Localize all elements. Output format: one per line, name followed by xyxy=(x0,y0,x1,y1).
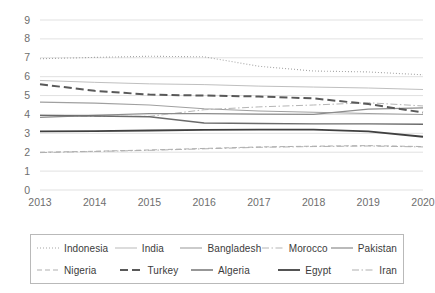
legend-row: Nigeria Turkey Algeria Egypt Iran xyxy=(37,259,397,281)
x-axis-tick-label: 2018 xyxy=(302,196,326,208)
legend-swatch-algeria xyxy=(191,265,213,275)
legend-label-pakistan: Pakistan xyxy=(358,243,397,254)
y-axis-tick-label: 7 xyxy=(24,51,30,63)
x-axis-tick-label: 2017 xyxy=(247,196,271,208)
y-axis-tick-label: 1 xyxy=(24,165,30,177)
legend-label-turkey: Turkey xyxy=(147,265,178,276)
legend-row: Indonesia India Bangladesh Morocco Pakis… xyxy=(37,237,397,259)
series-line-india xyxy=(40,80,423,89)
legend-label-bangladesh: Bangladesh xyxy=(207,243,261,254)
legend-swatch-morocco xyxy=(262,243,284,253)
legend-swatch-egypt xyxy=(278,265,300,275)
chart-legend: Indonesia India Bangladesh Morocco Pakis… xyxy=(30,234,404,284)
y-axis-tick-label: 8 xyxy=(24,32,30,44)
series-line-indonesia xyxy=(40,56,423,75)
x-axis-tick-label: 2019 xyxy=(357,196,381,208)
legend-item-turkey: Turkey xyxy=(120,265,190,276)
y-axis-tick-label: 9 xyxy=(24,14,30,26)
x-axis-tick-label: 2013 xyxy=(28,196,52,208)
legend-swatch-iran xyxy=(352,265,374,275)
x-axis-tick-label: 2015 xyxy=(138,196,162,208)
legend-item-bangladesh: Bangladesh xyxy=(180,243,261,254)
legend-item-pakistan: Pakistan xyxy=(331,243,397,254)
legend-item-indonesia: Indonesia xyxy=(37,243,115,254)
legend-item-iran: Iran xyxy=(352,265,397,276)
legend-label-india: India xyxy=(142,243,164,254)
legend-item-nigeria: Nigeria xyxy=(37,265,120,276)
legend-swatch-bangladesh xyxy=(180,243,202,253)
legend-swatch-indonesia xyxy=(37,243,59,253)
x-axis-tick-label: 2014 xyxy=(83,196,107,208)
legend-item-india: India xyxy=(115,243,181,254)
legend-label-morocco: Morocco xyxy=(289,243,328,254)
legend-label-algeria: Algeria xyxy=(218,265,250,276)
legend-swatch-turkey xyxy=(120,265,142,275)
y-axis-tick-label: 3 xyxy=(24,127,30,139)
legend-label-indonesia: Indonesia xyxy=(64,243,108,254)
y-axis-tick-label: 0 xyxy=(24,184,30,196)
chart-canvas: 0123456789201320142015201620172018201920… xyxy=(0,0,435,228)
legend-label-egypt: Egypt xyxy=(305,265,331,276)
legend-item-egypt: Egypt xyxy=(278,265,352,276)
y-axis-tick-label: 6 xyxy=(24,70,30,82)
legend-item-algeria: Algeria xyxy=(191,265,278,276)
legend-swatch-india xyxy=(115,243,137,253)
y-axis-tick-label: 4 xyxy=(24,108,30,120)
x-axis-tick-label: 2020 xyxy=(411,196,435,208)
series-line-iran xyxy=(40,146,423,153)
y-axis-tick-label: 2 xyxy=(24,146,30,158)
line-chart: 0123456789201320142015201620172018201920… xyxy=(0,0,435,228)
legend-label-iran: Iran xyxy=(379,265,397,276)
legend-label-nigeria: Nigeria xyxy=(64,265,96,276)
legend-swatch-pakistan xyxy=(331,243,353,253)
x-axis-tick-label: 2016 xyxy=(192,196,216,208)
y-axis-tick-label: 5 xyxy=(24,89,30,101)
legend-swatch-nigeria xyxy=(37,265,59,275)
legend-item-morocco: Morocco xyxy=(262,243,331,254)
